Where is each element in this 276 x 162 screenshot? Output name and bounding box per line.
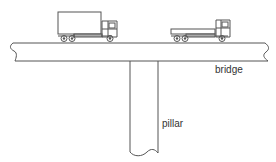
bridge-deck	[10, 43, 268, 61]
bridge-label: bridge	[215, 64, 243, 75]
pillar	[130, 61, 158, 156]
pillar-label: pillar	[162, 118, 183, 129]
box-truck	[58, 12, 117, 42]
bridge-diagram	[0, 0, 276, 162]
